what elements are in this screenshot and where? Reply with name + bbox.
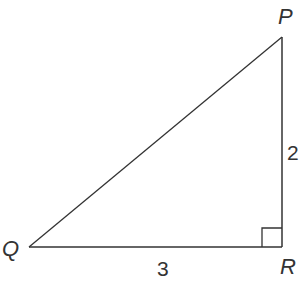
vertex-label-r: R (280, 254, 296, 279)
side-qp (29, 37, 282, 247)
triangle-diagram: P Q R 2 3 (0, 0, 306, 283)
side-length-qr: 3 (157, 257, 169, 280)
vertex-label-q: Q (2, 236, 19, 261)
right-angle-marker (262, 228, 282, 247)
side-length-pr: 2 (287, 141, 299, 164)
vertex-label-p: P (278, 4, 293, 29)
